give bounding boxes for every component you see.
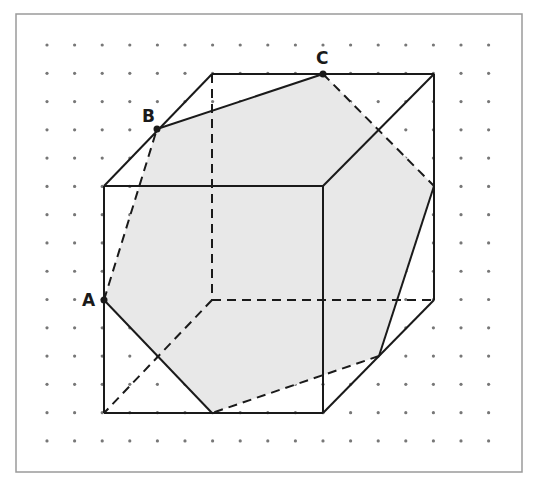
grid-dot [459,241,462,244]
grid-dot [432,326,435,329]
grid-dot [487,128,490,131]
point-label: A [82,290,96,310]
grid-dot [487,270,490,273]
grid-dot [239,43,242,46]
point-marker [320,71,327,78]
grid-dot [156,439,159,442]
grid-dot [73,439,76,442]
grid-dot [349,439,352,442]
grid-dot [45,326,48,329]
grid-dot [459,411,462,414]
grid-dot [459,298,462,301]
grid-dot [128,383,131,386]
grid-dot [487,157,490,160]
grid-dot [266,439,269,442]
grid-dot [404,298,407,301]
point-label: C [316,48,328,68]
grid-dot [73,270,76,273]
point-marker [101,297,108,304]
grid-dot [73,298,76,301]
grid-dot [487,213,490,216]
grid-dot [459,270,462,273]
grid-dot [432,383,435,386]
grid-dot [101,43,104,46]
grid-dot [183,72,186,75]
grid-dot [101,128,104,131]
grid-dot [45,43,48,46]
grid-dot [101,100,104,103]
grid-dot [45,383,48,386]
grid-dot [73,354,76,357]
grid-dot [487,383,490,386]
grid-dot [349,411,352,414]
grid-dot [73,43,76,46]
grid-dot [459,157,462,160]
grid-dot [156,383,159,386]
grid-dot [487,185,490,188]
grid-dot [487,43,490,46]
grid-dot [404,411,407,414]
grid-dot [487,298,490,301]
grid-dot [45,185,48,188]
grid-dot [321,43,324,46]
grid-dot [45,298,48,301]
grid-dot [45,241,48,244]
grid-dot [377,383,380,386]
grid-dot [459,354,462,357]
grid-dot [73,128,76,131]
grid-dot [459,185,462,188]
grid-dot [73,213,76,216]
point-label: B [142,106,155,126]
grid-dot [487,72,490,75]
grid-dot [73,100,76,103]
grid-dot [432,439,435,442]
grid-dot [45,213,48,216]
grid-dot [45,100,48,103]
grid-dot [101,157,104,160]
grid-dot [128,100,131,103]
grid-dot [266,43,269,46]
grid-dot [128,354,131,357]
grid-dot [45,354,48,357]
grid-dot [377,439,380,442]
grid-dot [183,43,186,46]
grid-dot [459,439,462,442]
grid-dot [294,439,297,442]
grid-dot [459,326,462,329]
grid-dot [487,411,490,414]
grid-dot [128,439,131,442]
grid-dot [459,383,462,386]
grid-dot [321,439,324,442]
grid-dot [459,213,462,216]
grid-dot [487,439,490,442]
grid-dot [211,439,214,442]
grid-dot [156,100,159,103]
grid-dot [45,72,48,75]
grid-dot [45,128,48,131]
grid-dot [211,100,214,103]
grid-dot [73,411,76,414]
grid-dot [45,439,48,442]
grid-dot [377,411,380,414]
grid-dot [73,383,76,386]
grid-dot [459,43,462,46]
grid-dot [239,439,242,442]
grid-dot [432,43,435,46]
grid-dot [487,354,490,357]
grid-dot [459,128,462,131]
grid-dot [294,43,297,46]
grid-dot [128,43,131,46]
grid-dot [432,354,435,357]
grid-dot [183,439,186,442]
grid-dot [487,100,490,103]
cube-cross-section-diagram: ABC [0,0,533,485]
grid-dot [101,72,104,75]
grid-dot [404,383,407,386]
point-marker [154,126,161,133]
grid-dot [211,43,214,46]
grid-dot [73,185,76,188]
grid-dot [349,43,352,46]
grid-dot [73,326,76,329]
grid-dot [404,439,407,442]
grid-dot [73,157,76,160]
